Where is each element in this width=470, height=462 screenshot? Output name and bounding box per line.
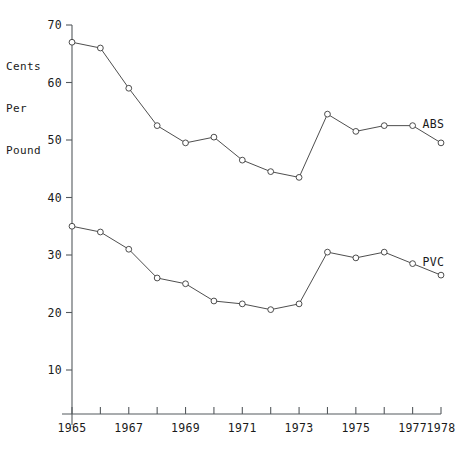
x-axis-tick-label: 1978 [427,421,456,435]
y-axis-title-line-2: Per [6,102,41,116]
data-point[interactable] [126,85,132,91]
data-point[interactable] [353,128,359,134]
x-axis-tick-label: 1967 [114,421,143,435]
data-point[interactable] [296,174,302,180]
data-point[interactable] [410,123,416,129]
x-axis-tick-label: 1971 [228,421,257,435]
data-point[interactable] [268,169,274,175]
data-point[interactable] [154,275,160,281]
data-point[interactable] [268,307,274,313]
data-point[interactable] [69,223,75,229]
data-point[interactable] [69,39,75,45]
data-series-group [69,39,444,312]
y-axis-tick-label: 70 [48,18,62,32]
series-pvc [69,223,444,312]
data-point[interactable] [381,123,387,129]
series-line-abs [72,42,441,177]
data-point[interactable] [239,301,245,307]
data-point[interactable] [97,45,103,51]
line-chart-plot: 10203040506070 1965196719691971197319751… [0,0,470,462]
data-point[interactable] [325,111,331,117]
x-axis-tick-label: 1975 [341,421,370,435]
data-point[interactable] [296,301,302,307]
data-point[interactable] [126,246,132,252]
y-axis-tick-label: 10 [48,363,62,377]
x-axis-tick-label: 1965 [58,421,87,435]
series-label-pvc: PVC [423,255,445,269]
data-point[interactable] [239,157,245,163]
cut-off-caption [170,452,470,462]
data-point[interactable] [211,134,217,140]
y-axis-tick-label: 30 [48,248,62,262]
series-abs [69,39,444,180]
y-axis-tick-label: 40 [48,191,62,205]
y-axis-title-line-3: Pound [6,144,41,158]
x-axis-tick-label: 1973 [285,421,314,435]
series-label-group: ABSPVC [423,117,445,269]
x-axis-tick-label: 1977 [398,421,427,435]
series-label-abs: ABS [423,117,445,131]
data-point[interactable] [211,298,217,304]
series-line-pvc [72,226,441,309]
y-axis-title-line-1: Cents [6,60,41,74]
data-point[interactable] [154,123,160,129]
x-axis-tick-label: 1969 [171,421,200,435]
chart-figure: Cents Per Pound 10203040506070 196519671… [0,0,470,462]
data-point[interactable] [97,229,103,235]
y-axis: 10203040506070 [48,18,72,425]
data-point[interactable] [183,140,189,146]
y-axis-title: Cents Per Pound [6,32,41,186]
data-point[interactable] [438,140,444,146]
data-point[interactable] [353,255,359,261]
data-point[interactable] [183,281,189,287]
x-axis: 19651967196919711973197519771978 [58,407,456,435]
data-point[interactable] [381,249,387,255]
y-axis-tick-label: 50 [48,133,62,147]
data-point[interactable] [438,272,444,278]
data-point[interactable] [410,261,416,267]
y-axis-tick-label: 20 [48,306,62,320]
data-point[interactable] [325,249,331,255]
y-axis-tick-label: 60 [48,76,62,90]
